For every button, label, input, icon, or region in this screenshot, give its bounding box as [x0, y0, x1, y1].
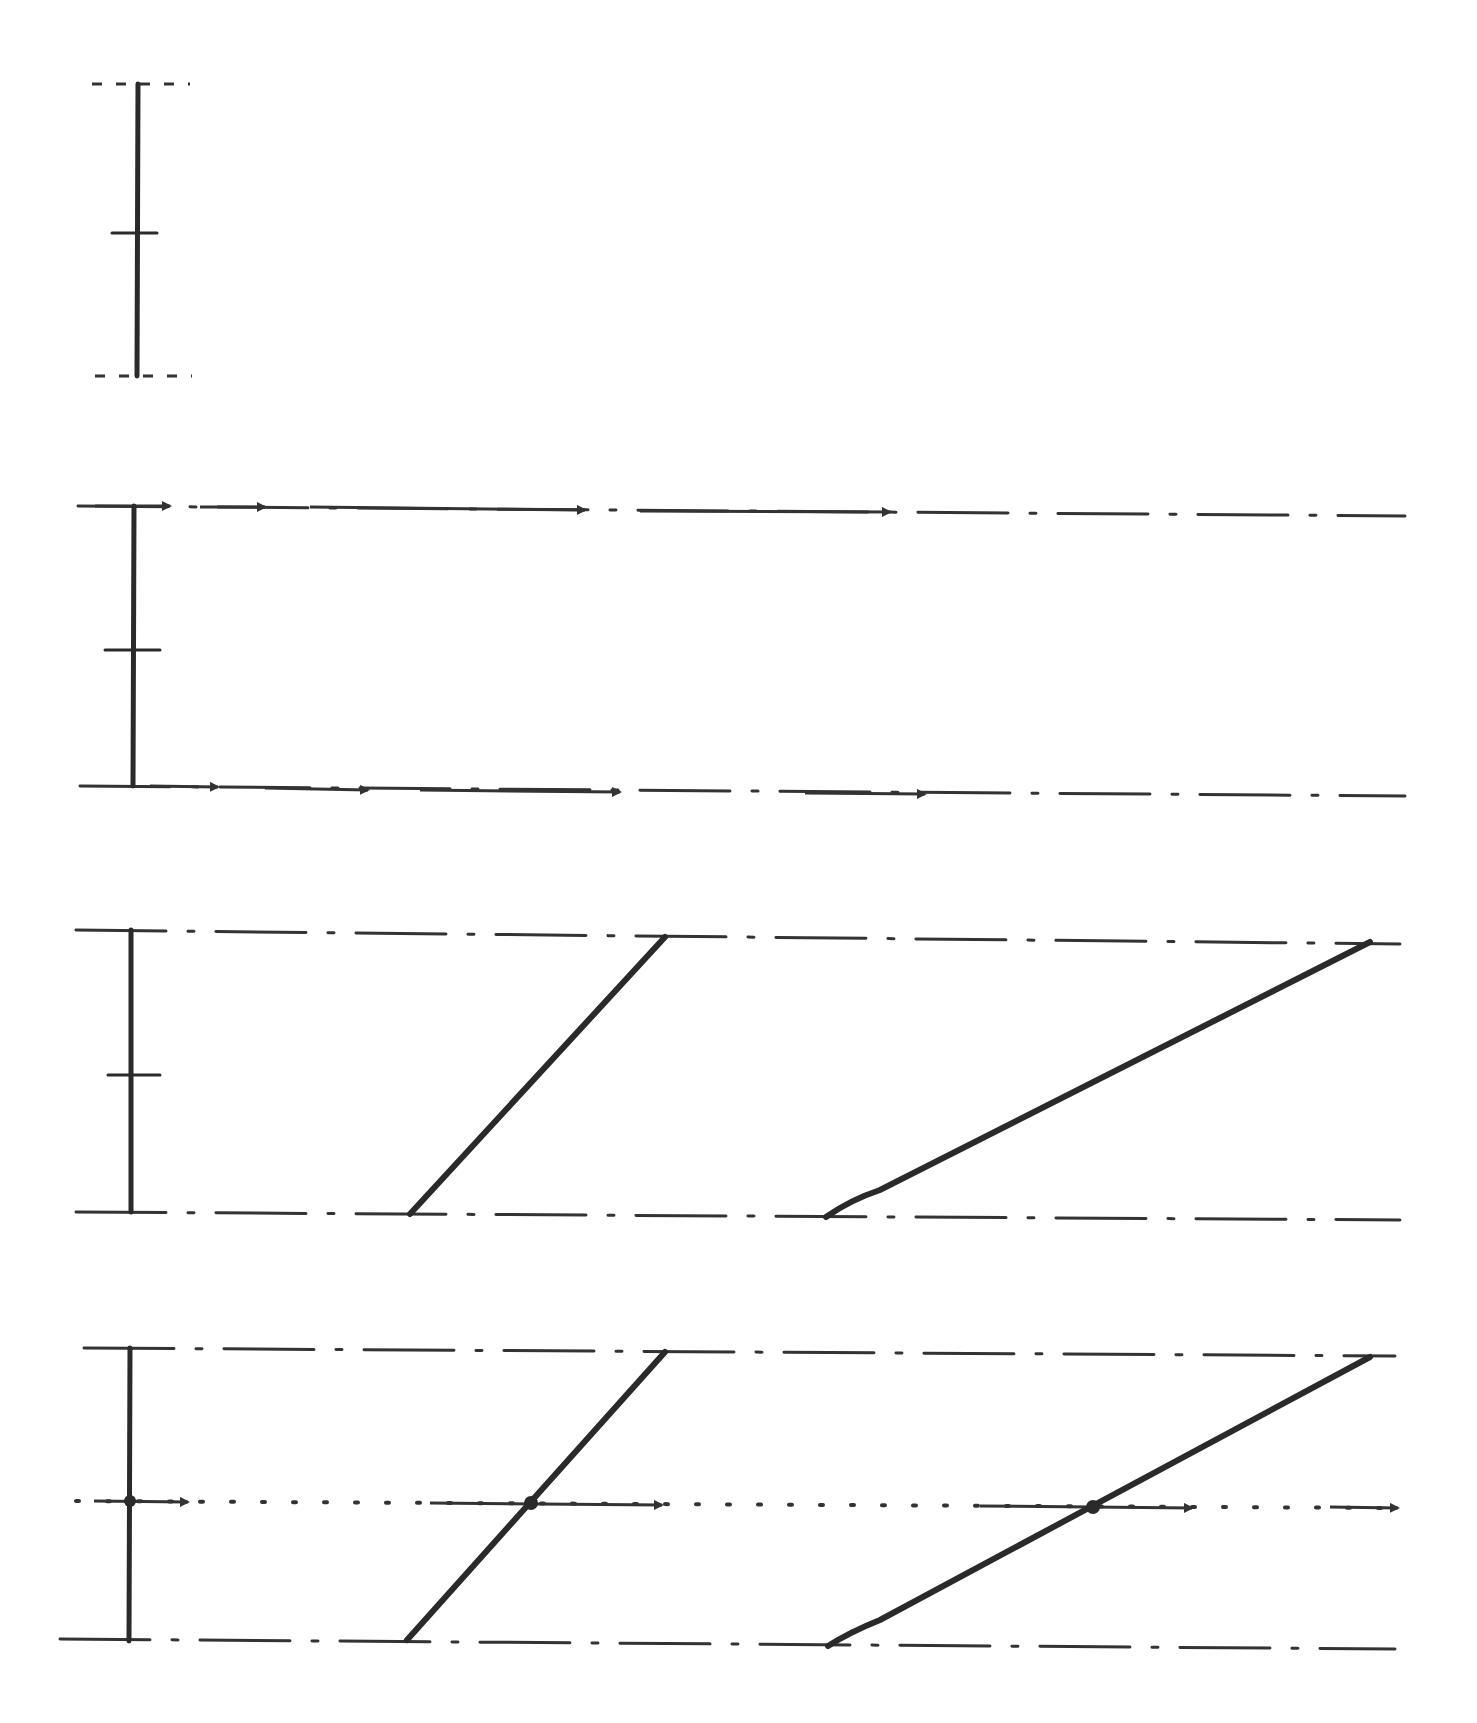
- intersection-point: [124, 1495, 136, 1507]
- panel-2: [78, 506, 1405, 796]
- intersection-point: [1086, 1500, 1100, 1514]
- panel-3: [76, 930, 1400, 1220]
- flow-arrow: [430, 1503, 662, 1505]
- slanted-line-steep: [410, 937, 665, 1214]
- slanted-line-steep: [407, 1352, 665, 1640]
- diagram-canvas: [0, 0, 1477, 1723]
- vertical-segment: [129, 1348, 130, 1641]
- bottom-boundary-line: [76, 1212, 1400, 1220]
- slanted-line-shallow: [826, 942, 1370, 1217]
- top-boundary-line: [76, 930, 1400, 944]
- flow-arrow: [805, 793, 925, 794]
- flow-arrow: [150, 786, 218, 787]
- flow-arrow: [640, 511, 890, 512]
- flow-arrow: [94, 1501, 188, 1502]
- flow-arrow: [265, 788, 368, 790]
- intersection-point: [524, 1496, 538, 1510]
- flow-arrow: [310, 507, 585, 510]
- bottom-boundary-line: [60, 1639, 1395, 1649]
- midline-dotted: [76, 1501, 1400, 1508]
- flow-arrow: [1330, 1507, 1398, 1508]
- panel-4: [60, 1348, 1400, 1649]
- vertical-segment: [133, 506, 134, 786]
- top-boundary-line: [84, 1348, 1395, 1356]
- slanted-line-shallow: [828, 1357, 1370, 1646]
- flow-arrow: [420, 790, 620, 792]
- panel-1: [92, 84, 192, 376]
- vertical-segment: [137, 84, 138, 376]
